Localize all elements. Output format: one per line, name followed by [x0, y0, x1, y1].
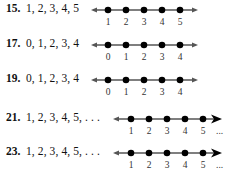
number-line: 12345...	[0, 145, 234, 175]
tick-label: 0	[106, 87, 111, 97]
tick-label: 4	[183, 160, 188, 170]
exercise-19: 19.0, 1, 2, 3, 401234	[0, 72, 234, 102]
ellipsis-label: ...	[216, 160, 223, 170]
tick-label: 2	[142, 52, 147, 62]
tick-label: 1	[124, 87, 129, 97]
left-arrow-icon	[91, 8, 97, 13]
left-arrow-icon	[91, 78, 97, 83]
point-3	[164, 150, 171, 157]
tick-label: 4	[183, 126, 188, 136]
point-1	[128, 150, 135, 157]
ellipsis-label: ...	[216, 126, 223, 136]
tick-label: 3	[165, 160, 170, 170]
point-2	[146, 150, 153, 157]
tick-label: 2	[124, 17, 129, 27]
tick-label: 1	[129, 160, 134, 170]
point-4	[159, 7, 166, 14]
point-3	[159, 77, 166, 84]
tick-label: 2	[147, 126, 152, 136]
tick-label: 4	[178, 87, 183, 97]
point-2	[123, 7, 130, 14]
tick-label: 3	[160, 52, 165, 62]
point-4	[182, 116, 189, 123]
tick-label: 2	[147, 160, 152, 170]
exercise-15: 15.1, 2, 3, 4, 512345	[0, 2, 234, 32]
point-3	[159, 42, 166, 49]
point-1	[123, 42, 130, 49]
number-line: 12345	[0, 2, 234, 32]
tick-label: 4	[160, 17, 165, 27]
exercise-21: 21.1, 2, 3, 4, 5, . . .12345...	[0, 111, 234, 141]
point-4	[177, 77, 184, 84]
left-arrow-icon	[113, 151, 119, 156]
tick-label: 4	[178, 52, 183, 62]
point-5	[177, 7, 184, 14]
point-4	[182, 150, 189, 157]
tick-label: 1	[124, 52, 129, 62]
right-arrow-icon	[192, 43, 198, 48]
number-line: 12345...	[0, 111, 234, 141]
point-5	[200, 116, 207, 123]
right-arrow-icon	[192, 78, 198, 83]
tick-label: 1	[106, 17, 111, 27]
left-arrow-icon	[91, 43, 97, 48]
tick-label: 1	[129, 126, 134, 136]
tick-label: 5	[201, 160, 206, 170]
point-1	[105, 7, 112, 14]
left-arrow-icon	[113, 117, 119, 122]
point-1	[128, 116, 135, 123]
tick-label: 3	[142, 17, 147, 27]
tick-label: 2	[142, 87, 147, 97]
tick-label: 0	[106, 52, 111, 62]
exercise-17: 17.0, 1, 2, 3, 401234	[0, 37, 234, 67]
point-5	[200, 150, 207, 157]
tick-label: 3	[165, 126, 170, 136]
point-2	[141, 77, 148, 84]
point-2	[141, 42, 148, 49]
tick-label: 5	[178, 17, 183, 27]
point-0	[105, 77, 112, 84]
point-3	[164, 116, 171, 123]
tick-label: 3	[160, 87, 165, 97]
point-1	[123, 77, 130, 84]
number-line: 01234	[0, 37, 234, 67]
number-line: 01234	[0, 72, 234, 102]
point-4	[177, 42, 184, 49]
exercise-23: 23.1, 2, 3, 4, 5, . . .12345...	[0, 145, 234, 175]
right-arrow-icon	[192, 8, 198, 13]
point-2	[146, 116, 153, 123]
point-0	[105, 42, 112, 49]
tick-label: 5	[201, 126, 206, 136]
point-3	[141, 7, 148, 14]
